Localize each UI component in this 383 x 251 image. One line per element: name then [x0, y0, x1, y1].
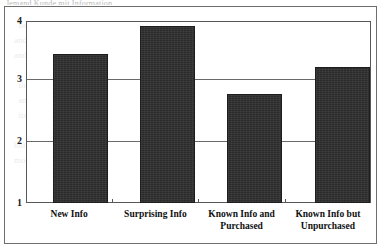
x-tick-label-new-info-line-1: New Info	[28, 208, 110, 220]
y-tick-label-2: 2	[6, 136, 22, 146]
x-tick-3	[285, 199, 286, 203]
bar-new-info	[53, 54, 108, 203]
x-axis: New Info Surprising Info Known Info and …	[26, 208, 371, 244]
y-axis: 4 3 2 1	[6, 0, 22, 251]
x-tick-label-surprising-info-line-1: Surprising Info	[114, 208, 196, 220]
y-tick-label-3: 3	[6, 74, 22, 84]
bar-known-info-and-purchased	[227, 94, 282, 203]
bar-surprising-info	[140, 26, 195, 203]
x-tick-label-known-info-but-unpurchased: Known Info but Unpurchased	[285, 208, 371, 244]
x-tick-label-known-info-but-unpurchased-line-1: Known Info but	[287, 208, 369, 220]
x-tick-label-known-info-and-purchased-line-1: Known Info and	[201, 208, 283, 220]
x-tick-label-known-info-and-purchased: Known Info and Purchased	[199, 208, 285, 244]
y-tick-label-1: 1	[6, 198, 22, 208]
x-tick-label-new-info: New Info	[26, 208, 112, 244]
bar-chart: 4 3 2 1 New Info Surprising Info Known I…	[0, 0, 383, 251]
y-tick-label-4: 4	[6, 16, 22, 26]
x-tick-2	[198, 199, 199, 203]
bar-known-info-but-unpurchased	[315, 67, 370, 204]
bar-series	[26, 21, 371, 203]
x-tick-label-surprising-info: Surprising Info	[112, 208, 198, 244]
x-tick-label-known-info-but-unpurchased-line-2: Unpurchased	[287, 220, 369, 232]
x-tick-label-known-info-and-purchased-line-2: Purchased	[201, 220, 283, 232]
x-tick-1	[112, 199, 113, 203]
